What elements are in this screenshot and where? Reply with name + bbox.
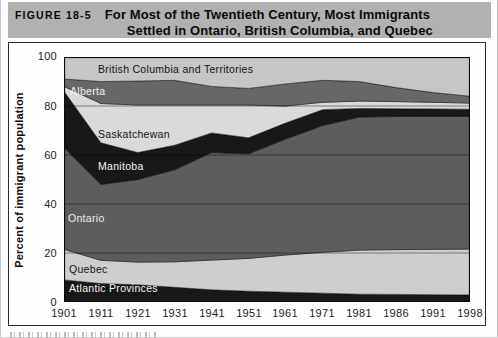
area-label-ontario: Ontario <box>68 212 105 224</box>
area-label-quebec: Quebec <box>69 263 108 275</box>
figure-title-line2: Settled in Ontario, British Columbia, an… <box>127 23 433 39</box>
x-tick-label-1931: 1931 <box>155 307 195 319</box>
stacked-area-plot: Atlantic ProvincesQuebecOntarioManitobaS… <box>64 57 470 302</box>
area-label-alberta: Alberta <box>70 85 105 97</box>
figure-title-line1: For Most of the Twentieth Century, Most … <box>105 7 433 23</box>
figure-number: FIGURE 18-5 <box>15 9 92 21</box>
area-label-atlantic-provinces: Atlantic Provinces <box>69 282 158 294</box>
area-label-british-columbia-and-territories: British Columbia and Territories <box>98 63 253 75</box>
area-label-manitoba: Manitoba <box>98 160 144 172</box>
x-tick-label-1911: 1911 <box>81 307 121 319</box>
x-tick-label-1986: 1986 <box>376 307 416 319</box>
x-tick-label-1941: 1941 <box>192 307 232 319</box>
x-tick-label-1961: 1961 <box>265 307 305 319</box>
y-tick-label-100: 100 <box>21 50 57 63</box>
y-tick-label-80: 80 <box>21 100 57 113</box>
y-tick-label-20: 20 <box>21 247 57 260</box>
chart-frame: Percent of immigrant population Atlantic… <box>8 42 486 326</box>
y-tick-label-40: 40 <box>21 198 57 211</box>
x-tick-label-1998: 1998 <box>450 307 490 319</box>
x-tick-label-1921: 1921 <box>118 307 158 319</box>
area-label-saskatchewan: Saskatchewan <box>98 128 170 140</box>
cropped-caption <box>10 332 158 338</box>
textbook-figure-page: { "figure_header": { "tag": "FIGURE 18-5… <box>0 0 498 338</box>
figure-title: For Most of the Twentieth Century, Most … <box>105 7 433 38</box>
x-tick-label-1901: 1901 <box>44 307 84 319</box>
x-tick-label-1991: 1991 <box>413 307 453 319</box>
x-tick-label-1971: 1971 <box>302 307 342 319</box>
x-tick-label-1981: 1981 <box>339 307 379 319</box>
y-tick-label-60: 60 <box>21 149 57 162</box>
figure-title-bar: FIGURE 18-5 For Most of the Twentieth Ce… <box>8 2 491 38</box>
x-tick-label-1951: 1951 <box>229 307 269 319</box>
